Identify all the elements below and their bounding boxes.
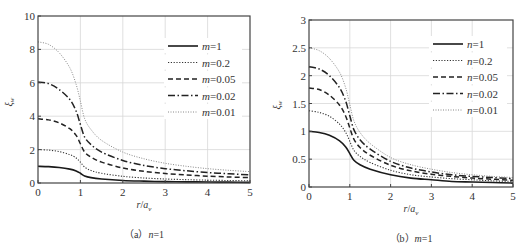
y-tick-label: 1.5 <box>292 98 306 110</box>
x-tick-label: 4 <box>469 190 475 202</box>
legend-label: n=0.2 <box>467 55 492 67</box>
y-tick-label: 3 <box>301 14 307 26</box>
x-tick-label: 1 <box>347 190 353 202</box>
legend-label: m=0.2 <box>202 57 230 69</box>
y-axis-label-a: ξw <box>3 97 16 106</box>
y-tick-label: 2 <box>30 144 36 156</box>
caption-a: （a）n=1 <box>124 229 164 240</box>
series-line <box>309 88 513 180</box>
y-tick-label: 4 <box>30 110 36 122</box>
x-tick-label: 5 <box>510 190 516 202</box>
legend-a: m=1m=0.2m=0.05m=0.02m=0.01 <box>164 38 242 119</box>
y-tick-label: 2.5 <box>292 42 306 54</box>
x-tick-label: 0 <box>306 190 312 202</box>
legend-label: m=1 <box>202 40 222 52</box>
x-tick-label: 3 <box>162 186 168 198</box>
x-tick-label: 2 <box>388 190 394 202</box>
y-tick-label: 2 <box>301 70 307 82</box>
legend-label: m=0.05 <box>202 73 236 85</box>
y-axis-label-b: ξw <box>271 100 284 109</box>
figure: 0246810 012345 m=1m=0.2m=0.05m=0.02m=0.0… <box>0 0 528 248</box>
legend-label: m=0.02 <box>202 90 235 102</box>
legend-label: n=1 <box>467 38 484 50</box>
x-axis-label-a: r/av <box>137 199 153 213</box>
y-tick-label: 0.5 <box>292 153 306 165</box>
x-tick-label: 3 <box>429 190 435 202</box>
legend-label: n=0.01 <box>467 104 498 116</box>
chart-panel-b: 00.511.522.53 012345 n=1n=0.2n=0.05n=0.0… <box>271 14 516 244</box>
legend-b: n=1n=0.2n=0.05n=0.02n=0.01 <box>429 36 507 117</box>
series-line <box>38 166 250 182</box>
x-tick-label: 1 <box>78 186 84 198</box>
y-tick-label: 1 <box>301 125 307 137</box>
y-tick-label: 8 <box>30 43 36 55</box>
chart-panel-a: 0246810 012345 m=1m=0.2m=0.05m=0.02m=0.0… <box>3 10 253 240</box>
y-tick-label: 6 <box>30 77 36 89</box>
x-tick-label: 0 <box>35 186 41 198</box>
x-axis-label-b: r/av <box>404 203 420 217</box>
caption-b: （b）m=1 <box>390 233 433 244</box>
legend-label: n=0.05 <box>467 71 498 83</box>
x-tick-label: 5 <box>247 186 253 198</box>
y-tick-label: 10 <box>24 10 36 22</box>
x-tick-label: 2 <box>120 186 126 198</box>
legend-label: n=0.02 <box>467 88 498 100</box>
x-tick-label: 4 <box>205 186 211 198</box>
legend-label: m=0.01 <box>202 106 235 118</box>
